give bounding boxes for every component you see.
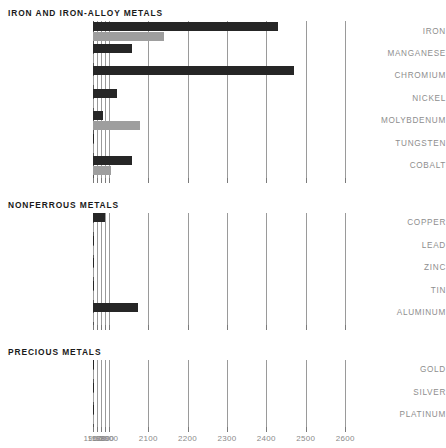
bar-light-iron [93,32,164,41]
bar-dark-cobalt [93,156,132,165]
bar-dark-silver [93,383,94,392]
resource-depletion-bar-chart: IRON AND IRON-ALLOY METALSIRONMANGANESEC… [0,0,446,448]
section-title-0: IRON AND IRON-ALLOY METALS [8,8,163,18]
gridline-2500 [306,360,307,427]
x-tick-label-2600: 2600 [329,434,361,443]
section-tick-1990 [105,325,106,330]
section-tick-2300 [227,427,228,432]
gridline-1970 [97,360,98,427]
bar-light-manganese [93,54,94,63]
bar-dark-platinum [93,405,94,414]
section-tick-2400 [266,325,267,330]
x-tick-label-2400: 2400 [250,434,282,443]
category-label-copper: COPPER [358,218,446,227]
section-tick-2600 [345,325,346,330]
gridline-2400 [266,21,267,178]
section-tick-1980 [101,427,102,432]
gridline-2500 [306,213,307,325]
bar-light-nickel [93,99,94,108]
bar-dark-molybdenum [93,111,103,120]
section-tick-1960 [93,178,94,183]
section-tick-2500 [306,178,307,183]
section-tick-1970 [97,427,98,432]
bar-dark-tin [93,281,94,290]
section-tick-2300 [227,325,228,330]
x-tick-label-2200: 2200 [172,434,204,443]
category-label-molybdenum: MOLYBDENUM [358,116,446,125]
bar-light-silver [93,393,94,402]
category-label-nickel: NICKEL [358,94,446,103]
bar-light-lead [93,246,94,255]
gridline-2400 [266,213,267,325]
x-tick-label-2100: 2100 [132,434,164,443]
section-tick-2200 [188,178,189,183]
category-label-cobalt: COBALT [358,161,446,170]
gridline-2000 [109,360,110,427]
bar-light-tungsten [93,144,94,153]
bar-dark-lead [93,236,94,245]
section-tick-2100 [148,427,149,432]
gridline-2300 [227,213,228,325]
bar-dark-copper [93,213,105,222]
section-title-1: NONFERROUS METALS [8,200,119,210]
gridline-2100 [148,360,149,427]
section-tick-2000 [109,178,110,183]
category-label-silver: SILVER [358,388,446,397]
bar-dark-nickel [93,89,117,98]
gridline-2200 [188,360,189,427]
bar-light-zinc [93,268,94,277]
section-tick-1960 [93,325,94,330]
bar-dark-chromium [93,66,294,75]
section-tick-2500 [306,427,307,432]
section-tick-2000 [109,325,110,330]
gridline-2300 [227,360,228,427]
section-tick-2400 [266,178,267,183]
category-label-platinum: PLATINUM [358,410,446,419]
category-label-lead: LEAD [358,241,446,250]
section-tick-2400 [266,427,267,432]
section-title-2: PRECIOUS METALS [8,347,101,357]
bar-light-tin [93,291,94,300]
category-label-zinc: ZINC [358,263,446,272]
bar-light-gold [93,370,94,379]
bar-light-chromium [93,76,94,85]
section-tick-2000 [109,427,110,432]
gridline-2600 [345,360,346,427]
category-label-iron: IRON [358,27,446,36]
category-label-gold: GOLD [358,365,446,374]
category-label-aluminum: ALUMINUM [358,308,446,317]
section-tick-2600 [345,427,346,432]
category-label-manganese: MANGANESE [358,49,446,58]
section-tick-1990 [105,427,106,432]
gridline-2200 [188,21,189,178]
bar-light-aluminum [93,313,94,322]
section-tick-2100 [148,325,149,330]
gridline-1980 [101,360,102,427]
bar-dark-gold [93,360,94,369]
bar-light-platinum [93,415,94,424]
gridline-2500 [306,21,307,178]
gridline-2400 [266,360,267,427]
section-tick-2100 [148,178,149,183]
x-tick-label-2500: 2500 [290,434,322,443]
gridline-2600 [345,213,346,325]
bar-dark-aluminum [93,303,138,312]
gridline-1990 [105,360,106,427]
section-tick-1980 [101,178,102,183]
section-tick-1970 [97,325,98,330]
section-tick-2600 [345,178,346,183]
bar-light-copper [93,223,94,232]
x-tick-label-2300: 2300 [211,434,243,443]
gridline-2200 [188,213,189,325]
section-tick-2200 [188,427,189,432]
bar-dark-manganese [93,44,132,53]
section-tick-2300 [227,178,228,183]
bar-dark-zinc [93,258,94,267]
x-tick-label-2000: 2000 [93,434,125,443]
category-label-tin: TIN [358,286,446,295]
gridline-2600 [345,21,346,178]
section-tick-1970 [97,178,98,183]
section-tick-1990 [105,178,106,183]
bar-light-cobalt [93,166,111,175]
gridline-2100 [148,213,149,325]
